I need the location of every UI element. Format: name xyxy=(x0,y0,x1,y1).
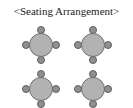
chair-south xyxy=(37,100,45,108)
chair-south xyxy=(89,56,97,64)
chair-south xyxy=(89,100,97,108)
chair-east xyxy=(104,41,112,49)
table-unit xyxy=(74,70,112,108)
table-unit xyxy=(22,26,60,64)
round-table xyxy=(81,77,105,101)
chair-east xyxy=(52,85,60,93)
table-unit xyxy=(22,70,60,108)
round-table xyxy=(81,33,105,57)
seating-arrangement-diagram: <Seating Arrangement> xyxy=(0,0,133,108)
round-table xyxy=(29,33,53,57)
chair-east xyxy=(52,41,60,49)
round-table xyxy=(29,77,53,101)
chair-south xyxy=(37,56,45,64)
diagram-title: <Seating Arrangement> xyxy=(0,5,133,18)
table-unit xyxy=(74,26,112,64)
chair-east xyxy=(104,85,112,93)
